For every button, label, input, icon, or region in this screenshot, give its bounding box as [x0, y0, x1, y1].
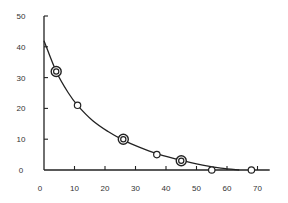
x-tick-label: 70: [253, 184, 262, 193]
fitted-curve: [44, 41, 239, 170]
x-tick-label: 0: [38, 184, 43, 193]
y-tick-label: 40: [17, 43, 26, 52]
tick-labels: 01020304050010203040506070: [17, 12, 263, 193]
chart: 01020304050010203040506070: [0, 0, 288, 203]
circle-marker: [209, 167, 215, 173]
y-tick-label: 50: [17, 12, 26, 21]
x-tick-label: 30: [131, 184, 140, 193]
circle-marker: [74, 102, 80, 108]
y-tick-label: 10: [17, 135, 26, 144]
data-points: [51, 66, 254, 173]
y-tick-label: 30: [17, 74, 26, 83]
x-tick-label: 20: [101, 184, 110, 193]
y-tick-label: 20: [17, 104, 26, 113]
x-tick-label: 40: [162, 184, 171, 193]
x-tick-label: 60: [223, 184, 232, 193]
axes: [44, 16, 270, 170]
x-tick-label: 10: [70, 184, 79, 193]
x-tick-label: 50: [192, 184, 201, 193]
circle-marker: [154, 151, 160, 157]
y-tick-label: 0: [19, 166, 24, 175]
circle-marker: [248, 167, 254, 173]
